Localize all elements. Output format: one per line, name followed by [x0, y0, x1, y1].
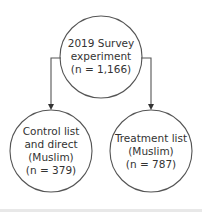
arrowhead-right-icon [148, 104, 154, 110]
arrow-to-treatment [141, 58, 151, 106]
root-line-3: (n = 1,166) [61, 63, 141, 76]
root-node-label: 2019 Survey experiment (n = 1,166) [61, 37, 141, 76]
treatment-line-3: (n = 787) [111, 158, 191, 171]
control-line-2: and direct [11, 138, 91, 151]
control-line-4: (n = 379) [11, 164, 91, 177]
control-line-3: (Muslim) [11, 151, 91, 164]
treatment-node-label: Treatment list (Muslim) (n = 787) [111, 132, 191, 171]
treatment-line-1: Treatment list [111, 132, 191, 145]
control-line-1: Control list [11, 125, 91, 138]
bottom-divider [0, 209, 202, 212]
treatment-line-2: (Muslim) [111, 145, 191, 158]
root-line-2: experiment [61, 50, 141, 63]
arrow-to-control [51, 58, 61, 106]
flowchart-graphics [0, 0, 202, 212]
control-node-label: Control list and direct (Muslim) (n = 37… [11, 125, 91, 177]
root-line-1: 2019 Survey [61, 37, 141, 50]
arrowhead-left-icon [48, 104, 54, 110]
